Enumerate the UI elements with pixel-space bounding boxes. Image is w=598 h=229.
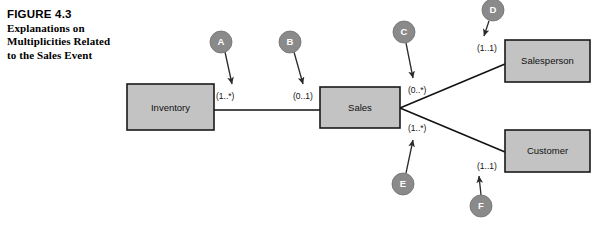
multiplicity-label-inventory-side: (1..*) <box>216 91 235 101</box>
callout-e-letter: E <box>400 178 406 189</box>
leader-line-b <box>294 52 303 84</box>
leader-line-e <box>406 140 413 173</box>
figure-container: FIGURE 4.3 Explanations on Multiplicitie… <box>0 0 598 229</box>
entity-salesperson-label: Salesperson <box>521 55 574 66</box>
leader-line-a <box>225 52 232 84</box>
entity-customer[interactable]: Customer <box>505 130 590 172</box>
callout-a[interactable]: A <box>210 31 232 53</box>
entity-sales-label: Sales <box>348 102 372 113</box>
callout-d-letter: D <box>490 4 497 15</box>
leader-line-f <box>479 176 481 195</box>
callout-a-letter: A <box>218 36 225 47</box>
callout-f-letter: F <box>478 200 484 211</box>
entity-salesperson[interactable]: Salesperson <box>505 40 590 82</box>
leader-line-c <box>406 43 413 78</box>
callout-d[interactable]: D <box>482 0 504 21</box>
multiplicity-label-sales-lower-right: (1..*) <box>408 123 427 133</box>
entity-inventory[interactable]: Inventory <box>127 84 214 130</box>
entity-customer-label: Customer <box>527 145 568 156</box>
callout-c-letter: C <box>401 26 408 37</box>
entity-inventory-label: Inventory <box>151 102 190 113</box>
uml-class-diagram: Inventory Sales Salesperson Customer (1.… <box>0 0 598 229</box>
leader-line-d <box>484 21 489 36</box>
callout-f[interactable]: F <box>470 195 492 217</box>
callout-b-letter: B <box>287 36 294 47</box>
multiplicity-label-sales-left: (0..1) <box>293 91 313 101</box>
multiplicity-label-customer-side: (1..1) <box>477 161 497 171</box>
multiplicity-label-sales-upper-right: (0..*) <box>408 85 427 95</box>
multiplicity-label-salesperson-side: (1..1) <box>477 43 497 53</box>
callout-c[interactable]: C <box>393 21 415 43</box>
callout-b[interactable]: B <box>279 31 301 53</box>
entity-sales[interactable]: Sales <box>320 87 400 128</box>
callout-e[interactable]: E <box>392 173 414 195</box>
